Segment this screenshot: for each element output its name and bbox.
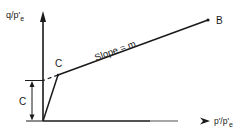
y-axis <box>40 11 46 121</box>
dimension-arrow-bottom-icon <box>30 115 35 121</box>
y-axis-arrow-icon <box>40 11 46 22</box>
y-axis-label-sub: e <box>20 15 24 22</box>
point-b-marker <box>206 18 209 21</box>
x-axis-label-sub: e <box>229 121 233 128</box>
failure-envelope-diagram: q/p'e p'/p'e B C Slope = m C <box>0 0 252 136</box>
intercept-label: C <box>19 96 26 107</box>
x-axis-label: p'/p'e <box>214 116 233 128</box>
intercept-dimension <box>25 81 43 122</box>
x-axis-label-main: p'/p' <box>214 116 229 126</box>
x-axis <box>43 118 210 125</box>
x-axis-arrow-icon <box>200 118 210 125</box>
y-axis-label-main: q/p' <box>6 10 21 20</box>
y-axis-label: q/p'e <box>6 10 24 22</box>
dimension-arrow-top-icon <box>30 81 35 87</box>
slope-label: Slope = m <box>93 38 137 63</box>
point-b-label: B <box>216 15 223 26</box>
initial-segment <box>43 75 58 121</box>
point-c-label: C <box>55 58 62 69</box>
